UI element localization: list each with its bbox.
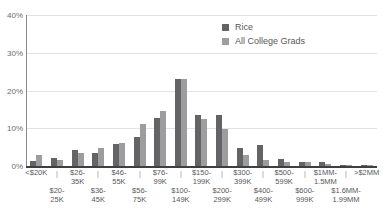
bar-group — [191, 15, 212, 166]
bar-group — [315, 15, 336, 166]
y-axis-tick-label: 10% — [0, 124, 23, 133]
x-axis-tick-label: $46-55K — [111, 169, 126, 186]
legend-swatch-icon — [222, 24, 229, 31]
y-axis-line — [26, 15, 27, 167]
legend-label: All College Grads — [235, 36, 305, 46]
y-axis-tick-label: 20% — [0, 86, 23, 95]
bar-series-container — [26, 15, 377, 166]
bar[interactable] — [98, 148, 104, 166]
bar-group — [336, 15, 357, 166]
bar-group — [88, 15, 109, 166]
x-axis-tick-label: $400-499K — [254, 187, 273, 204]
x-axis-tick-label: $600-999K — [295, 187, 314, 204]
x-axis-tick-label: $56-75K — [132, 187, 147, 204]
bar-group — [356, 15, 377, 166]
bar-group — [26, 15, 47, 166]
bar[interactable] — [181, 79, 187, 166]
x-axis-tick-label: $76-99K — [153, 169, 168, 186]
x-axis-tick-mark — [222, 171, 223, 178]
legend: Rice All College Grads — [222, 22, 305, 50]
x-axis-tick-mark — [56, 171, 57, 178]
bar-group — [109, 15, 130, 166]
x-axis-tick-mark — [304, 171, 305, 178]
x-axis-tick-mark — [139, 171, 140, 178]
bar[interactable] — [140, 124, 146, 166]
x-axis-tick-label: $500-599K — [274, 169, 293, 186]
bar[interactable] — [201, 119, 207, 166]
x-axis-tick-label: >$2MM — [354, 169, 379, 178]
bar-group — [150, 15, 171, 166]
bar-group — [171, 15, 192, 166]
income-distribution-bar-chart: 0%10%20%30%40% Rice All College Grads <$… — [0, 0, 383, 223]
x-axis-tick-label: $36-45K — [91, 187, 106, 204]
bar-group — [47, 15, 68, 166]
y-axis-tick-label: 0% — [0, 162, 23, 171]
x-axis-labels: <$20K$20-25K$26-35K$36-45K$46-55K$56-75K… — [26, 168, 377, 223]
x-axis-tick-label: $150-199K — [192, 169, 211, 186]
legend-item-rice[interactable]: Rice — [222, 22, 305, 32]
y-axis-tick-label: 40% — [0, 11, 23, 20]
x-axis-tick-label: $20-25K — [49, 187, 64, 204]
bar[interactable] — [119, 143, 125, 166]
x-axis-tick-label: $26-35K — [70, 169, 85, 186]
x-axis-tick-label: $1MM-1.5MM — [314, 169, 337, 186]
x-axis-tick-mark — [346, 171, 347, 178]
legend-label: Rice — [235, 22, 253, 32]
x-axis-tick-label: <$20K — [25, 169, 47, 178]
bar-group — [129, 15, 150, 166]
bar-group — [67, 15, 88, 166]
y-axis-tick-label: 30% — [0, 48, 23, 57]
bar[interactable] — [78, 153, 84, 166]
x-axis-tick-label: $100-149K — [171, 187, 190, 204]
bar[interactable] — [222, 129, 228, 166]
x-axis-tick-label: $200-299K — [213, 187, 232, 204]
plot-area — [26, 15, 377, 166]
x-axis-tick-mark — [263, 171, 264, 178]
legend-swatch-icon — [222, 38, 229, 45]
x-axis-tick-mark — [98, 171, 99, 178]
y-axis-ticks: 0%10%20%30%40% — [0, 15, 24, 166]
bar[interactable] — [160, 111, 166, 166]
bar[interactable] — [36, 155, 42, 166]
x-axis-tick-label: $300-399K — [233, 169, 252, 186]
x-axis-tick-mark — [180, 171, 181, 178]
x-axis-tick-label: $1.6MM-1.99MM — [331, 187, 361, 204]
legend-item-all-college-grads[interactable]: All College Grads — [222, 36, 305, 46]
bar[interactable] — [243, 155, 249, 166]
